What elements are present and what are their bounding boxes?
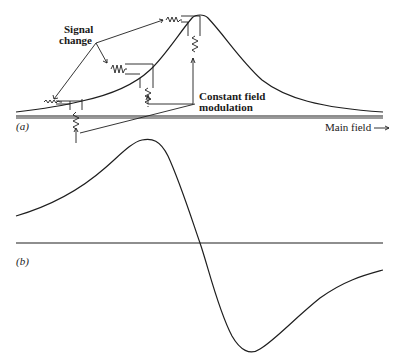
esr-modulation-diagram: Signal change Constant field modulation …	[0, 0, 408, 363]
constant-field-label-2: modulation	[199, 101, 253, 113]
panel-b: (b)	[16, 139, 383, 352]
signal-change-label-2: change	[59, 34, 92, 46]
modulation-arrow-mid	[148, 96, 193, 104]
signal-arrow-low	[54, 43, 96, 99]
panel-a-label: (a)	[16, 120, 29, 133]
main-field-axis-label: Main field	[325, 121, 372, 133]
modulation-arrow-low	[80, 104, 195, 133]
signal-arrow-top	[96, 20, 163, 43]
signal-arrow-mid	[96, 43, 107, 63]
derivative-curve	[16, 139, 383, 352]
panel-a: Signal change Constant field modulation …	[16, 15, 389, 143]
panel-b-label: (b)	[16, 255, 29, 268]
